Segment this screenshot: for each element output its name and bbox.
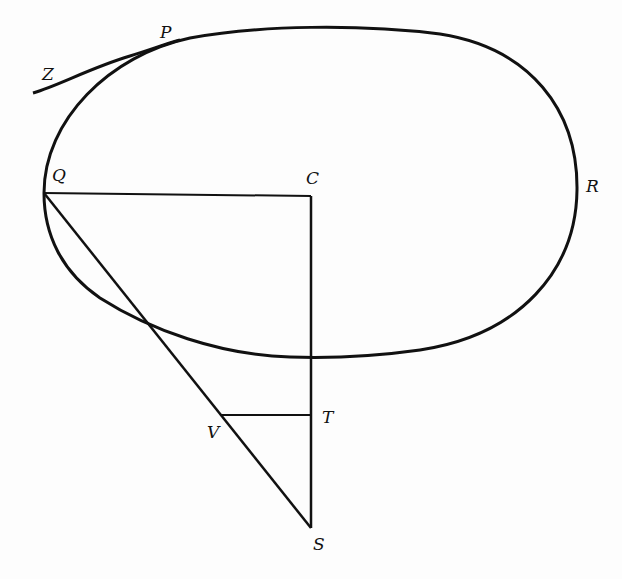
- label-q: Q: [52, 167, 66, 184]
- diagram-figure: [0, 0, 622, 579]
- line-qs: [44, 193, 311, 528]
- label-t: T: [322, 409, 333, 426]
- label-p: P: [160, 24, 171, 41]
- line-qc: [44, 193, 311, 196]
- label-c: C: [306, 170, 319, 187]
- label-z: Z: [42, 66, 54, 83]
- diagram-canvas: P Z Q C R T V S: [0, 0, 622, 579]
- label-r: R: [586, 178, 599, 195]
- label-v: V: [207, 424, 219, 441]
- tangent-line-zp: [33, 40, 180, 93]
- label-s: S: [313, 536, 325, 553]
